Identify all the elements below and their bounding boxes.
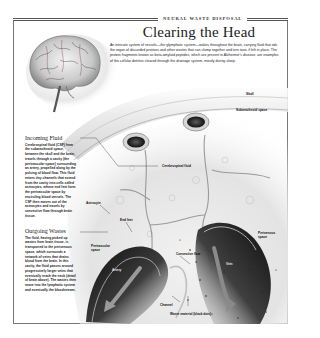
label-artery: Artery [112,268,121,272]
outgoing-wastes-heading: Outgoing Wastes [25,228,77,235]
label-end-feet: End feet [120,218,133,222]
label-convective-flow: Convective flow [176,252,200,256]
intro-paragraph: An intricate system of vessels—the glymp… [110,43,282,64]
page-title: Clearing the Head [120,24,278,41]
section-kicker: NEURAL WASTE DISPOSAL [158,15,247,23]
label-vein: Vein [226,262,233,266]
incoming-fluid-heading: Incoming Fluid [25,135,77,142]
label-astrocyte: Astrocyte [86,201,101,205]
label-waste-material: Waste material (black dots) [170,312,211,316]
outgoing-wastes-section: Outgoing Wastes The fluid, having picked… [25,228,77,293]
brain-detail-icon [26,34,118,112]
label-subarachnoid-space: Subarachnoid space [236,108,267,112]
label-skull: Skull [246,92,254,96]
label-channel: Channel [160,303,173,307]
label-perivascular-space: Perivascular space [91,244,109,252]
incoming-fluid-section: Incoming Fluid Cerebrospinal fluid (CSF)… [25,135,77,219]
label-cerebrospinal-fluid: Cerebrospinal fluid [162,164,191,168]
label-perivenous-space: Perivenous space [258,231,276,239]
outgoing-wastes-body: The fluid, having picked up wastes from … [25,236,77,293]
incoming-fluid-body: Cerebrospinal fluid (CSF) from the subar… [25,143,77,219]
